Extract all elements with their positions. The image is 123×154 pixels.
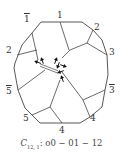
vertex-label: 4 <box>59 126 65 135</box>
vertex-label: 1 <box>24 15 30 24</box>
arrow-icon <box>55 62 61 70</box>
vertex-label: 4 <box>90 114 96 123</box>
boundary-line <box>50 80 60 107</box>
vertex-label: 5 <box>23 114 29 123</box>
vertex-label: 3 <box>109 48 115 57</box>
boundary-line <box>32 33 38 60</box>
caption-subscript: 12, 1 <box>27 144 40 150</box>
outer-polygon <box>14 22 108 123</box>
arrow-icon <box>60 63 68 69</box>
vertex-label: 5 <box>6 87 12 96</box>
caption: C12, 1: o0 − 01 − 12 <box>0 138 123 150</box>
arrow-cluster <box>33 56 67 82</box>
boundary-line <box>60 22 69 50</box>
boundary-line <box>62 43 87 58</box>
inner-lines <box>17 22 107 123</box>
vertex-label: 2 <box>6 46 12 55</box>
caption-text: : o0 − 01 − 12 <box>40 138 103 148</box>
vertex-label: 1 <box>57 11 63 20</box>
arrow-icon <box>53 56 59 64</box>
arrow-icon <box>33 59 41 65</box>
boundary-line <box>18 70 45 90</box>
vertex-label: 2 <box>94 23 100 32</box>
boundary-line <box>87 30 107 55</box>
vertex-label: 3 <box>109 86 115 95</box>
boundary-line <box>62 72 83 100</box>
boundary-line <box>32 107 62 123</box>
